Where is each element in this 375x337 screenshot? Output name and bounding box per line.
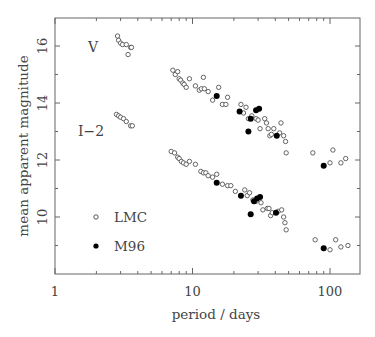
- data-point: [210, 175, 214, 179]
- legend-label-m96: M96: [114, 238, 145, 254]
- data-point: [343, 156, 347, 160]
- data-point: [206, 89, 210, 93]
- data-point: [220, 182, 224, 186]
- plot-frame: [55, 18, 360, 274]
- y-axis-ticks: 10121416: [35, 38, 360, 246]
- data-point: [328, 248, 332, 252]
- data-point: [245, 129, 251, 135]
- x-axis-ticks: 110100: [51, 18, 343, 299]
- v-band-label: V: [87, 39, 99, 55]
- data-point: [193, 162, 197, 166]
- data-point: [130, 124, 134, 128]
- data-point: [215, 172, 219, 176]
- data-point: [267, 206, 271, 210]
- data-point: [269, 132, 273, 136]
- data-point: [201, 75, 205, 79]
- data-point: [214, 93, 220, 99]
- data-point: [206, 173, 210, 177]
- legend-open-circle-icon: [94, 215, 98, 219]
- data-point: [264, 121, 268, 125]
- data-point: [193, 84, 197, 88]
- data-point: [184, 85, 188, 89]
- data-point: [283, 221, 287, 225]
- legend: LMC M96: [93, 209, 147, 254]
- data-point: [210, 98, 214, 102]
- data-point: [339, 245, 343, 249]
- y-tick-label: 14: [35, 95, 50, 112]
- data-point: [346, 243, 350, 247]
- data-point: [124, 42, 128, 46]
- data-point: [321, 245, 327, 251]
- data-point: [248, 211, 254, 217]
- data-points: [114, 34, 350, 252]
- data-point: [247, 191, 251, 195]
- y-tick-label: 10: [35, 209, 50, 226]
- data-point: [258, 126, 262, 130]
- data-point: [284, 228, 288, 232]
- data-point: [243, 188, 247, 192]
- x-tick-label: 1: [51, 284, 59, 299]
- data-point: [214, 180, 220, 186]
- data-point: [274, 133, 280, 139]
- x-tick-label: 10: [184, 284, 201, 299]
- data-point: [333, 238, 337, 242]
- x-tick-label: 100: [318, 284, 343, 299]
- data-point: [283, 139, 287, 143]
- legend-label-lmc: LMC: [114, 209, 147, 225]
- data-point: [257, 194, 263, 200]
- data-point: [262, 116, 266, 120]
- data-point: [328, 161, 332, 165]
- data-point: [281, 134, 285, 138]
- data-point: [311, 151, 315, 155]
- data-point: [248, 116, 254, 122]
- data-point: [172, 151, 176, 155]
- series-lmc-i-2: [114, 112, 350, 252]
- data-point: [175, 69, 179, 73]
- data-point: [313, 238, 317, 242]
- series-m96-v: [214, 93, 327, 169]
- data-point: [259, 201, 263, 205]
- x-axis-label: period / days: [172, 306, 261, 322]
- data-point: [272, 126, 276, 130]
- plot-border: [55, 18, 360, 274]
- data-point: [124, 119, 128, 123]
- y-axis-label: mean apparent magnitude: [15, 55, 31, 236]
- series-lmc-v: [115, 34, 348, 165]
- data-point: [187, 159, 191, 163]
- data-point: [266, 126, 270, 130]
- data-point: [321, 163, 327, 169]
- data-point: [225, 95, 229, 99]
- data-point: [216, 85, 220, 89]
- legend-filled-circle-icon: [93, 243, 98, 248]
- i-band-label: I−2: [78, 123, 104, 139]
- data-point: [281, 215, 285, 219]
- data-point: [229, 183, 233, 187]
- data-point: [115, 34, 119, 38]
- data-point: [233, 189, 237, 193]
- y-tick-label: 16: [35, 38, 50, 55]
- data-point: [273, 210, 279, 216]
- y-tick-label: 12: [35, 152, 50, 169]
- period-luminosity-chart: 110100 10121416 V I−2 LMC M96 period / d…: [0, 0, 375, 337]
- data-point: [126, 52, 130, 56]
- data-point: [261, 208, 265, 212]
- data-point: [339, 161, 343, 165]
- data-point: [279, 208, 283, 212]
- data-point: [284, 151, 288, 155]
- data-point: [171, 68, 175, 72]
- data-point: [279, 121, 283, 125]
- data-point: [239, 102, 243, 106]
- data-point: [256, 118, 260, 122]
- data-point: [187, 77, 191, 81]
- data-point: [244, 105, 248, 109]
- data-point: [224, 102, 228, 106]
- data-point: [256, 106, 262, 112]
- data-point: [129, 45, 133, 49]
- data-point: [237, 109, 243, 115]
- data-point: [238, 193, 244, 199]
- data-point: [331, 148, 335, 152]
